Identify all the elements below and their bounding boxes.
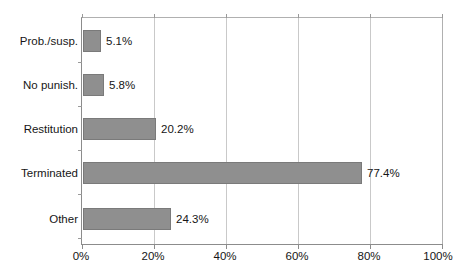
tick-bottom-80 <box>370 244 371 249</box>
tick-top-80 <box>370 14 371 18</box>
tick-top-100 <box>442 14 443 18</box>
tick-top-0 <box>82 14 83 18</box>
category-label-terminated: Terminated <box>2 167 78 179</box>
bar-prob-susp <box>83 30 101 52</box>
category-label-no-punish: No punish. <box>2 79 78 91</box>
tick-bottom-60 <box>298 244 299 249</box>
tick-y-band-4 <box>78 194 82 195</box>
category-label-restitution: Restitution <box>2 123 78 135</box>
bar-no-punish <box>83 74 104 96</box>
y-axis-category-labels: Prob./susp. No punish. Restitution Termi… <box>0 0 78 275</box>
x-tick-label-20: 20% <box>141 250 164 263</box>
bar-chart: Prob./susp. No punish. Restitution Termi… <box>0 0 461 275</box>
tick-bottom-0 <box>82 244 83 249</box>
bar-terminated <box>83 162 362 184</box>
tick-y-band-3 <box>78 150 82 151</box>
tick-bottom-20 <box>154 244 155 249</box>
category-label-other: Other <box>2 213 78 225</box>
bar-other <box>83 208 171 230</box>
value-label-no-punish: 5.8% <box>109 79 135 91</box>
x-tick-label-60: 60% <box>285 250 308 263</box>
x-tick-label-100: 100% <box>423 250 452 263</box>
tick-y-band-5 <box>78 238 82 239</box>
tick-top-60 <box>298 14 299 18</box>
tick-bottom-100 <box>442 244 443 249</box>
value-label-terminated: 77.4% <box>367 167 400 179</box>
x-tick-label-0: 0% <box>73 250 90 263</box>
gridline-40 <box>226 18 227 244</box>
value-label-other: 24.3% <box>176 213 209 225</box>
tick-top-20 <box>154 14 155 18</box>
x-tick-label-80: 80% <box>357 250 380 263</box>
tick-top-40 <box>226 14 227 18</box>
gridline-80 <box>370 18 371 244</box>
value-label-prob-susp: 5.1% <box>106 35 132 47</box>
value-label-restitution: 20.2% <box>161 123 194 135</box>
x-tick-label-40: 40% <box>213 250 236 263</box>
tick-y-band-1 <box>78 62 82 63</box>
tick-bottom-40 <box>226 244 227 249</box>
tick-y-band-2 <box>78 106 82 107</box>
plot-area: 5.1% 5.8% 20.2% 77.4% 24.3% <box>81 17 443 245</box>
category-label-prob-susp: Prob./susp. <box>2 35 78 47</box>
bar-restitution <box>83 118 156 140</box>
gridline-60 <box>298 18 299 244</box>
